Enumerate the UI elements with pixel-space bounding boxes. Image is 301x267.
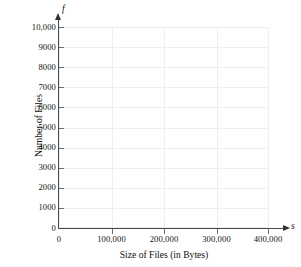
y-axis-tick-label: 10,000 <box>4 23 56 32</box>
y-axis-variable-symbol: f <box>62 4 65 14</box>
y-axis-line <box>58 20 59 229</box>
y-axis-tick <box>59 188 64 189</box>
x-axis-tick-label: 300,000 <box>202 234 231 244</box>
x-axis-title: Size of Files (in Bytes) <box>59 249 269 260</box>
y-axis-tick <box>59 208 64 209</box>
gridline-vertical <box>268 27 269 228</box>
y-axis-arrowhead-icon <box>55 13 61 20</box>
y-axis-tick <box>59 148 64 149</box>
y-axis-tick-label: 3000 <box>4 163 56 172</box>
x-axis-tick-label: 400,000 <box>254 234 283 244</box>
blank-coordinate-grid-chart: 10,000 9000 8000 7000 6000 5000 4000 300… <box>0 0 301 267</box>
y-axis-title: Number of Files <box>33 25 44 226</box>
y-axis-tick-label: 8000 <box>4 63 56 72</box>
y-axis-tick <box>59 47 64 48</box>
y-axis-tick <box>59 107 64 108</box>
y-axis-tick-label: 5000 <box>4 123 56 132</box>
y-axis-tick-label: 0 <box>4 224 56 233</box>
y-axis-tick-label: 7000 <box>4 83 56 92</box>
x-axis-tick-label: 200,000 <box>150 234 179 244</box>
x-axis-variable-symbol: s <box>291 221 295 231</box>
y-axis-tick <box>59 87 64 88</box>
y-axis-tick-label: 6000 <box>4 103 56 112</box>
y-axis-tick <box>59 67 64 68</box>
x-axis-tick-label: 0 <box>57 234 61 244</box>
y-axis-tick-label: 2000 <box>4 183 56 192</box>
gridline-vertical <box>164 27 165 228</box>
x-axis-arrowhead-icon <box>283 225 290 231</box>
x-axis-tick-label: 100,000 <box>97 234 126 244</box>
plot-area <box>59 27 269 228</box>
x-axis-line <box>58 228 285 229</box>
y-axis-tick-label: 4000 <box>4 143 56 152</box>
gridline-vertical <box>112 27 113 228</box>
y-axis-tick <box>59 168 64 169</box>
y-axis-tick-label: 1000 <box>4 203 56 212</box>
y-axis-tick <box>59 128 64 129</box>
y-axis-tick-label: 9000 <box>4 43 56 52</box>
y-axis-tick <box>59 27 64 28</box>
gridline-vertical <box>217 27 218 228</box>
